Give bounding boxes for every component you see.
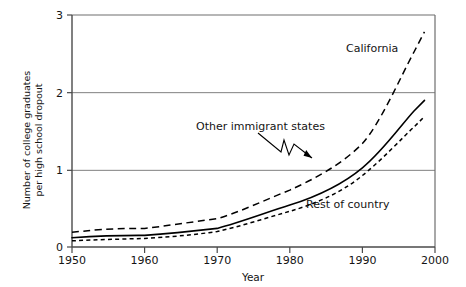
ytick-label-2: 2: [56, 87, 63, 100]
series-label-california: California: [346, 42, 398, 55]
y-axis-title-line2: per high school dropout: [33, 83, 44, 196]
chart-figure: 0 1 2 3 1950 1960 1970 1980 1990 2000 Ye…: [0, 0, 466, 287]
ytick-label-3: 3: [56, 9, 63, 22]
ytick-label-1: 1: [56, 164, 63, 177]
y-axis-title-line1: Number of college graduates: [21, 71, 32, 210]
y-axis-ticks: [67, 15, 72, 247]
xtick-label-1970: 1970: [203, 254, 231, 267]
series-label-rest-of-country: Rest of country: [306, 198, 390, 211]
y-axis-title: Number of college graduates per high sch…: [21, 71, 44, 210]
x-axis-title: Year: [241, 271, 265, 283]
x-axis-ticks: [72, 247, 435, 253]
x-tick-labels: 1950 1960 1970 1980 1990 2000: [58, 254, 449, 267]
line-chart: 0 1 2 3 1950 1960 1970 1980 1990 2000 Ye…: [0, 0, 466, 287]
xtick-label-1950: 1950: [58, 254, 86, 267]
series-label-other-immigrant-states: Other immigrant states: [196, 120, 325, 133]
ytick-label-0: 0: [56, 241, 63, 254]
xtick-label-1990: 1990: [348, 254, 376, 267]
xtick-label-1980: 1980: [276, 254, 304, 267]
xtick-label-1960: 1960: [131, 254, 159, 267]
xtick-label-2000: 2000: [421, 254, 449, 267]
y-tick-labels: 0 1 2 3: [56, 9, 63, 254]
